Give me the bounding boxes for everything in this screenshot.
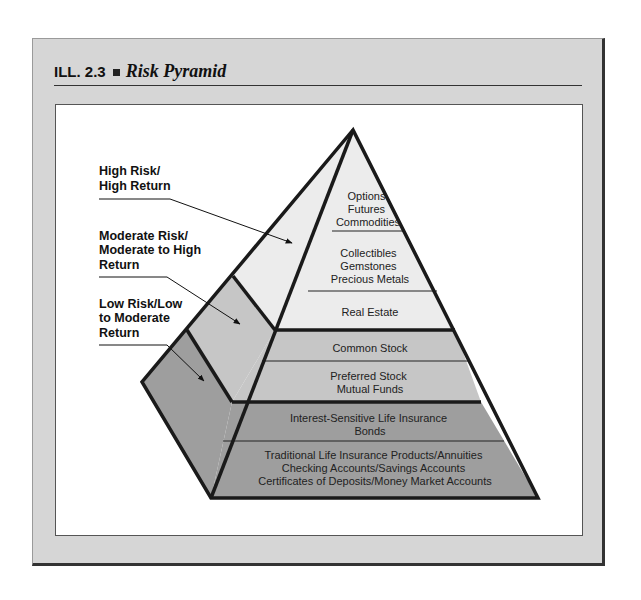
tier-text: Preferred Stock Mutual Funds bbox=[330, 370, 409, 395]
risk-pyramid-diagram: Options Futures Commodities Collectibles… bbox=[0, 0, 641, 600]
tier-text: Traditional Life Insurance Products/Annu… bbox=[258, 449, 492, 487]
risk-label-high: High Risk/ High Return bbox=[99, 164, 171, 193]
risk-label-moderate: Moderate Risk/ Moderate to High Return bbox=[99, 229, 205, 272]
tier-text: Collectibles Gemstones Precious Metals bbox=[331, 247, 410, 285]
tier-text: Common Stock bbox=[332, 342, 408, 354]
tier-text: Real Estate bbox=[342, 306, 399, 318]
risk-label-low: Low Risk/Low to Moderate Return bbox=[99, 297, 186, 340]
